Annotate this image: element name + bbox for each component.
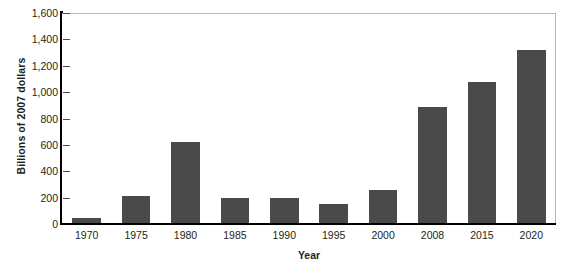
- x-axis-tick-label: 2000: [358, 229, 407, 241]
- y-axis-tick-label: 1,000: [18, 87, 58, 97]
- y-axis-tick-label: 800: [18, 114, 58, 124]
- y-axis-tick-label: 400: [18, 166, 58, 176]
- x-axis-title: Year: [62, 249, 556, 261]
- x-axis-tick-label: 2008: [408, 229, 457, 241]
- bar: [171, 142, 200, 224]
- x-axis-tick-label: 1985: [210, 229, 259, 241]
- y-axis-tick-label: 600: [18, 140, 58, 150]
- x-axis-tick-label: 1995: [309, 229, 358, 241]
- x-axis-tick-label: 2015: [457, 229, 506, 241]
- bar: [122, 196, 151, 224]
- y-axis-tick-label: 1,600: [18, 8, 58, 18]
- bar-chart: Billions of 2007 dollars 1,6001,4001,200…: [0, 0, 565, 273]
- x-axis-tick-label: 2020: [507, 229, 556, 241]
- bar: [369, 190, 398, 224]
- x-axis-tick-label: 1990: [260, 229, 309, 241]
- bar: [221, 198, 250, 224]
- bar: [319, 204, 348, 224]
- y-axis-tick-label: 1,400: [18, 34, 58, 44]
- x-axis-line: [60, 223, 556, 226]
- y-axis-tick-label: 0: [18, 219, 58, 229]
- bar: [468, 82, 497, 224]
- x-axis-tick-label: 1980: [161, 229, 210, 241]
- bar: [270, 198, 299, 224]
- y-axis-tick-labels: 1,6001,4001,2001,0008006004002000: [18, 0, 58, 273]
- x-axis-tick-label: 1970: [62, 229, 111, 241]
- x-axis-tick-labels: 1970197519801985199019952000200820152020: [62, 229, 556, 243]
- y-axis-tick-label: 1,200: [18, 61, 58, 71]
- x-axis-tick-label: 1975: [111, 229, 160, 241]
- y-axis-tick-label: 200: [18, 193, 58, 203]
- bar-series: [62, 13, 556, 224]
- bar: [517, 50, 546, 224]
- bar: [418, 107, 447, 224]
